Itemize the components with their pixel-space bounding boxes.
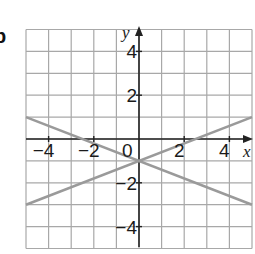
x-tick-label: −2 (78, 140, 100, 161)
x-axis-name: x (242, 142, 251, 161)
coordinate-graph: b y x 0 −4−22442−2−4 (0, 0, 255, 254)
axes (26, 26, 253, 247)
origin-label: 0 (122, 140, 133, 161)
y-axis-name: y (120, 23, 130, 42)
y-tick-label: −4 (115, 217, 137, 238)
y-axis-arrow-icon (135, 26, 143, 36)
x-tick-label: 4 (219, 140, 230, 161)
part-label-text: b (0, 25, 6, 47)
x-tick-label: 2 (174, 140, 185, 161)
y-tick-label: 4 (126, 41, 137, 62)
y-tick-label: 2 (126, 85, 137, 106)
y-tick-label: −2 (115, 173, 137, 194)
part-label: b (0, 25, 6, 47)
x-tick-label: −4 (33, 140, 55, 161)
